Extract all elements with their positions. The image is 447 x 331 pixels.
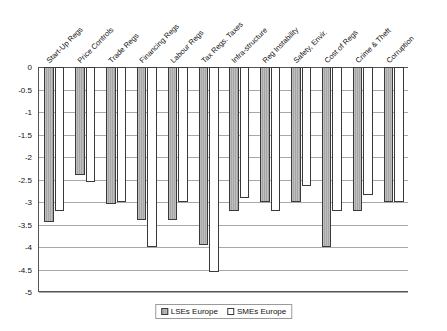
category-label: Trade Regs <box>107 31 141 65</box>
bar-smes <box>147 67 157 247</box>
y-axis-labels: 0-0.5-1-1.5-2-2.5-3-3.5-4-4.5-5 <box>0 0 36 331</box>
bar-lses <box>75 67 85 175</box>
chart-legend: LSEs Europe SMEs Europe <box>155 304 293 319</box>
y-axis-tick-label: -4.5 <box>18 265 32 274</box>
legend-item-smes: SMEs Europe <box>227 307 286 316</box>
y-axis-tick-label: -2.5 <box>18 175 32 184</box>
bar-lses <box>229 67 239 211</box>
bar-lses <box>322 67 332 247</box>
bar-groups <box>39 67 408 291</box>
bar-lses <box>137 67 147 220</box>
bar-smes <box>117 67 127 202</box>
bar-smes <box>178 67 188 202</box>
bar-group <box>255 67 286 291</box>
bar-smes <box>209 67 219 272</box>
bar-group <box>317 67 348 291</box>
bar-group <box>286 67 317 291</box>
bar-smes <box>55 67 65 211</box>
legend-label-smes: SMEs Europe <box>237 307 286 316</box>
bar-group <box>39 67 70 291</box>
y-axis-tick-label: -3.5 <box>18 220 32 229</box>
bar-lses <box>260 67 270 202</box>
legend-swatch-icon-lses <box>161 308 168 315</box>
legend-swatch-icon-smes <box>227 308 234 315</box>
bar-smes <box>332 67 342 211</box>
bar-smes <box>271 67 281 211</box>
plot-area <box>38 67 408 292</box>
y-axis-tick-label: -2 <box>25 153 32 162</box>
bar-lses <box>199 67 209 245</box>
bar-group <box>378 67 409 291</box>
bar-smes <box>86 67 96 182</box>
bar-smes <box>302 67 312 186</box>
bar-group <box>224 67 255 291</box>
bar-lses <box>384 67 394 202</box>
y-axis-tick-label: -4 <box>25 243 32 252</box>
legend-item-lses: LSEs Europe <box>161 307 218 316</box>
bar-group <box>162 67 193 291</box>
bar-chart: Start-Up RegsPrice ControlsTrade RegsFin… <box>0 0 447 331</box>
bar-smes <box>240 67 250 198</box>
bar-lses <box>106 67 116 204</box>
gridline <box>39 292 408 293</box>
bar-group <box>132 67 163 291</box>
bar-smes <box>394 67 404 202</box>
bar-group <box>70 67 101 291</box>
bar-lses <box>291 67 301 202</box>
bar-smes <box>363 67 373 195</box>
bar-group <box>347 67 378 291</box>
legend-label-lses: LSEs Europe <box>171 307 218 316</box>
bar-group <box>193 67 224 291</box>
bar-lses <box>44 67 54 222</box>
y-axis-tick-label: -0.5 <box>18 85 32 94</box>
category-axis-labels: Start-Up RegsPrice ControlsTrade RegsFin… <box>0 0 447 67</box>
category-label: Corruption <box>384 34 415 65</box>
y-axis-tick-label: -3 <box>25 198 32 207</box>
y-axis-tick-label: 0 <box>28 63 32 72</box>
y-axis-tick-label: -1 <box>25 108 32 117</box>
y-axis-tick-label: -5 <box>25 288 32 297</box>
y-axis-tick-label: -1.5 <box>18 130 32 139</box>
bar-lses <box>168 67 178 220</box>
bar-group <box>101 67 132 291</box>
bar-lses <box>353 67 363 211</box>
